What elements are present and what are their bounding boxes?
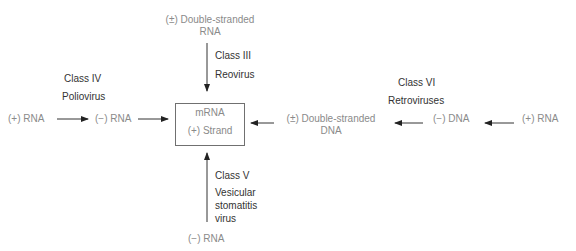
arrows-layer (0, 0, 576, 251)
